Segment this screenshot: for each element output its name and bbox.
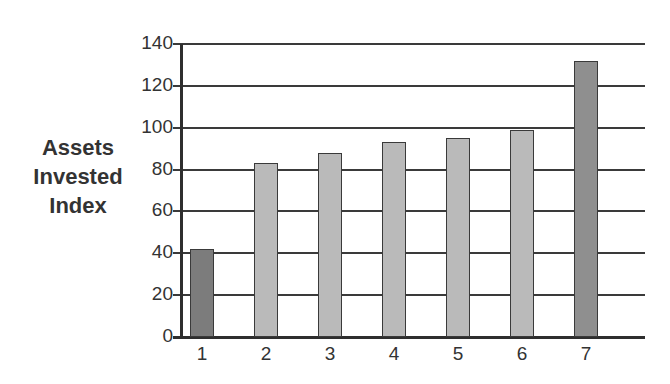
y-tick-label: 40 xyxy=(133,241,173,263)
y-axis-title-line-2: Invested xyxy=(18,162,138,191)
bar-chart: Assets Invested Index 020406080100120140… xyxy=(0,0,670,384)
y-axis-title-line-3: Index xyxy=(18,191,138,220)
y-tick-label: 120 xyxy=(133,74,173,96)
y-axis-title-line-1: Assets xyxy=(18,133,138,162)
x-tick-label: 5 xyxy=(443,343,473,365)
y-axis-line xyxy=(180,44,183,338)
y-axis-title: Assets Invested Index xyxy=(18,133,138,220)
y-tick-label: 100 xyxy=(133,116,173,138)
y-tick-label: 0 xyxy=(133,325,173,347)
x-tick-label: 1 xyxy=(187,343,217,365)
bar-7 xyxy=(574,61,598,337)
bar-5 xyxy=(446,138,470,337)
bar-3 xyxy=(318,153,342,337)
bar-2 xyxy=(254,163,278,337)
gridline xyxy=(181,43,645,45)
bar-6 xyxy=(510,130,534,337)
x-tick-label: 2 xyxy=(251,343,281,365)
bar-4 xyxy=(382,142,406,337)
x-tick-label: 3 xyxy=(315,343,345,365)
y-tick-label: 20 xyxy=(133,283,173,305)
x-tick-label: 6 xyxy=(507,343,537,365)
y-tick-label: 60 xyxy=(133,199,173,221)
y-tick-label: 80 xyxy=(133,158,173,180)
y-tick-label: 140 xyxy=(133,32,173,54)
x-tick-label: 7 xyxy=(571,343,601,365)
x-tick-label: 4 xyxy=(379,343,409,365)
bar-1 xyxy=(190,249,214,337)
